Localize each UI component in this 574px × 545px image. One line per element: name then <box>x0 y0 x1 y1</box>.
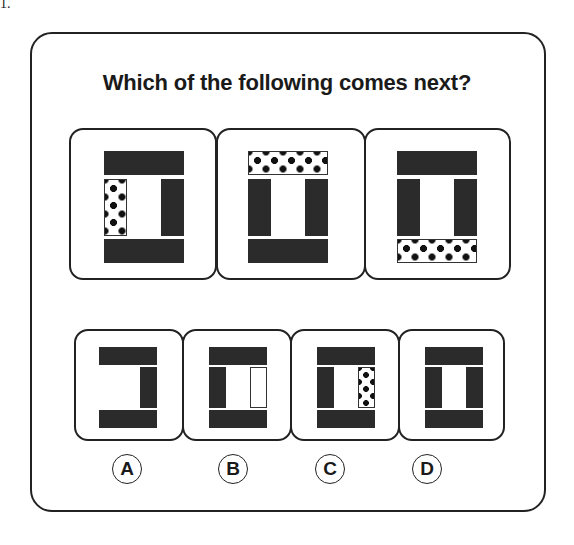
bottom-bar <box>99 410 157 428</box>
option-label-b[interactable]: B <box>218 454 248 484</box>
left-bar <box>425 367 442 408</box>
question-title: Which of the following comes next? <box>0 70 574 96</box>
left-bar <box>317 367 334 408</box>
option-card-d[interactable] <box>398 329 505 441</box>
top-bar <box>317 347 375 365</box>
top-bar <box>397 151 477 175</box>
top-bar-dotted <box>248 151 328 175</box>
top-bar <box>99 347 157 365</box>
left-bar <box>209 367 226 408</box>
sequence-card-1 <box>69 128 217 280</box>
bottom-bar-dotted <box>397 239 477 263</box>
right-bar <box>161 179 184 236</box>
option-card-c[interactable] <box>290 329 400 441</box>
option-label-d[interactable]: D <box>412 454 442 484</box>
top-bar <box>209 347 267 365</box>
option-card-b[interactable] <box>182 329 292 441</box>
left-bar-dotted <box>104 179 127 236</box>
sequence-card-2 <box>216 128 366 280</box>
option-label-a[interactable]: A <box>112 454 142 484</box>
bottom-bar <box>104 239 184 263</box>
sequence-card-3 <box>364 128 511 280</box>
option-label-c[interactable]: C <box>315 454 345 484</box>
right-bar-dotted <box>358 367 375 408</box>
right-bar <box>140 367 157 408</box>
right-bar <box>466 367 483 408</box>
left-bar <box>397 179 420 236</box>
right-bar <box>305 179 328 236</box>
top-bar <box>104 151 184 175</box>
left-bar <box>248 179 271 236</box>
bottom-bar <box>248 239 328 263</box>
option-card-a[interactable] <box>74 329 184 441</box>
question-number: 1. <box>0 0 11 12</box>
top-bar <box>425 347 483 365</box>
bottom-bar <box>425 410 483 428</box>
right-bar-outline <box>250 367 267 408</box>
bottom-bar <box>317 410 375 428</box>
right-bar <box>454 179 477 236</box>
bottom-bar <box>209 410 267 428</box>
